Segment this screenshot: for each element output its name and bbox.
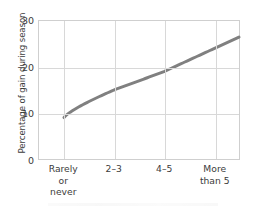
series-line-percentage-of-gain	[64, 37, 239, 118]
gridline-vertical	[64, 21, 65, 159]
data-line-series	[39, 21, 239, 159]
y-tick-label: 30	[14, 15, 34, 26]
x-axis-tick-labels: Rarelyornever2–34–5Morethan 5	[38, 163, 240, 208]
gridline-horizontal	[39, 68, 239, 69]
y-tick-label: 10	[14, 108, 34, 119]
gridline-vertical	[115, 21, 116, 159]
gridline-vertical	[216, 21, 217, 159]
y-tick-label: 20	[14, 61, 34, 72]
x-tick-label: Morethan 5	[180, 163, 250, 186]
gridline-vertical	[165, 21, 166, 159]
x-tick-label-line: than 5	[180, 175, 250, 187]
x-tick-label-line: or	[28, 175, 98, 187]
gridline-horizontal	[39, 114, 239, 115]
plot-area	[38, 20, 240, 160]
x-tick-label-line: More	[180, 163, 250, 175]
chart-figure: Percentage of gain during season 0102030…	[0, 0, 260, 210]
scan-edge-artifact	[48, 203, 218, 206]
x-tick-label-line: never	[28, 186, 98, 198]
